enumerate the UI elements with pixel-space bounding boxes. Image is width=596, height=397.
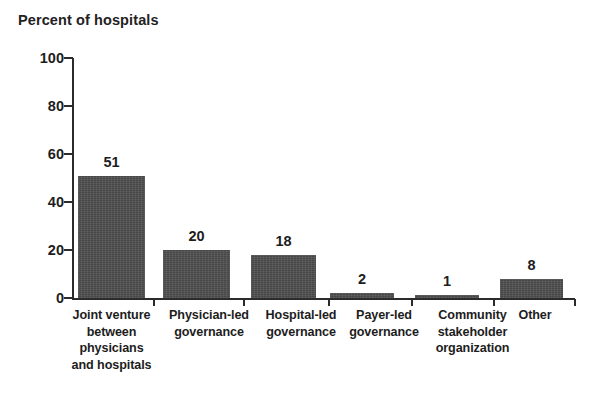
bar	[415, 295, 479, 298]
y-tick-mark	[64, 249, 73, 251]
category-label: Physician-ledgovernance	[159, 307, 259, 340]
category-label-line: and hospitals	[60, 357, 163, 374]
y-tick-label: 80	[22, 98, 64, 114]
category-label-line: governance	[253, 324, 349, 341]
y-axis-line	[72, 58, 74, 299]
bar-value-label: 8	[500, 257, 563, 273]
bar	[251, 255, 316, 298]
x-tick-mark	[328, 299, 330, 306]
y-tick-mark	[64, 105, 73, 107]
bar-value-label: 18	[251, 233, 316, 249]
x-tick-mark	[243, 299, 245, 306]
x-tick-mark	[574, 299, 576, 306]
category-label-line: physicians	[60, 340, 163, 357]
y-tick-label: 40	[22, 194, 64, 210]
category-label: Joint venturebetweenphysiciansand hospit…	[60, 307, 163, 373]
bar	[163, 250, 230, 298]
bar-value-label: 2	[330, 271, 394, 287]
x-tick-mark	[411, 299, 413, 306]
y-tick-mark	[64, 57, 73, 59]
bar	[500, 279, 563, 298]
y-tick-label: 60	[22, 146, 64, 162]
y-tick-label: 0	[22, 290, 64, 306]
category-label-line: Other	[500, 307, 570, 324]
category-label: Payer-ledgovernance	[339, 307, 429, 340]
y-tick-mark	[64, 153, 73, 155]
category-label-line: Joint venture	[60, 307, 163, 324]
x-axis-line	[72, 298, 575, 300]
y-tick-mark	[64, 297, 73, 299]
category-label-line: organization	[420, 340, 525, 357]
category-label: Other	[500, 307, 570, 324]
category-label-line: stakeholder	[420, 324, 525, 341]
category-label-line: Physician-led	[159, 307, 259, 324]
bar-chart: Percent of hospitals 100806040200 512018…	[0, 0, 596, 397]
bar-value-label: 51	[78, 154, 145, 170]
plot-area: 100806040200 512018218 Joint venturebetw…	[0, 0, 596, 397]
category-label-line: governance	[159, 324, 259, 341]
category-label: Hospital-ledgovernance	[253, 307, 349, 340]
bar	[330, 293, 394, 298]
x-tick-mark	[153, 299, 155, 306]
y-tick-mark	[64, 201, 73, 203]
bar-value-label: 1	[415, 273, 479, 289]
category-label-line: Payer-led	[339, 307, 429, 324]
y-tick-label: 20	[22, 242, 64, 258]
category-label-line: governance	[339, 324, 429, 341]
category-label-line: Hospital-led	[253, 307, 349, 324]
x-tick-mark	[493, 299, 495, 306]
bar-value-label: 20	[163, 228, 230, 244]
y-tick-label: 100	[22, 50, 64, 66]
bar	[78, 176, 145, 298]
category-label-line: between	[60, 324, 163, 341]
